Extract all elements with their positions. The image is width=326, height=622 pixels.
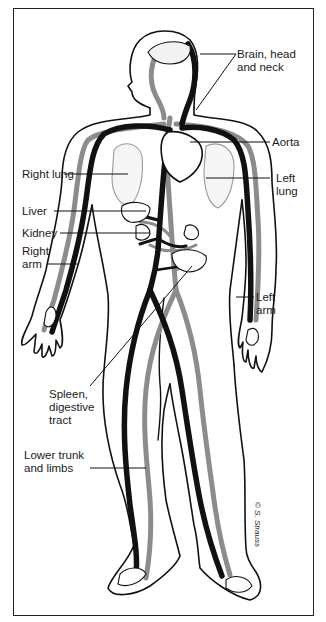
label-line: Liver — [22, 205, 47, 218]
left-foot-capillaries — [226, 577, 252, 593]
label-liver: Liver — [22, 205, 47, 218]
label-line: tract — [49, 414, 94, 427]
label-line: digestive — [49, 401, 94, 414]
right-kidney — [136, 224, 150, 240]
left-kidney — [184, 225, 198, 240]
label-kidney: Kidney — [22, 227, 57, 240]
label-line: arm — [22, 258, 49, 271]
label-spleen-digestive-tract: Spleen, digestive tract — [49, 388, 94, 427]
label-line: Kidney — [22, 227, 57, 240]
label-lower-trunk-limbs: Lower trunk and limbs — [24, 449, 84, 475]
label-line: arm — [256, 304, 276, 317]
label-right-arm: Right arm — [22, 245, 49, 271]
left-lung — [204, 144, 234, 208]
right-foot-capillaries — [118, 568, 146, 586]
circulatory-illustration — [0, 0, 326, 622]
label-left-arm: Left arm — [256, 291, 276, 317]
right-lung — [112, 144, 143, 206]
label-left-lung: Left lung — [276, 172, 298, 198]
label-line: Left — [256, 291, 276, 304]
label-line: Brain, head — [237, 48, 296, 61]
liver — [121, 202, 150, 222]
label-aorta: Aorta — [272, 136, 300, 149]
label-brain-head-neck: Brain, head and neck — [237, 48, 296, 74]
label-line: Right lung — [22, 168, 74, 181]
label-line: Aorta — [272, 136, 300, 149]
label-line: and limbs — [24, 462, 84, 475]
label-line: and neck — [237, 61, 296, 74]
label-line: Lower trunk — [24, 449, 84, 462]
label-line: lung — [276, 185, 298, 198]
label-line: Left — [276, 172, 298, 185]
label-line: Spleen, — [49, 388, 94, 401]
artist-signature: © S. Strauss — [253, 502, 262, 547]
label-right-lung: Right lung — [22, 168, 74, 181]
label-line: Right — [22, 245, 49, 258]
left-hand-capillaries — [246, 328, 258, 345]
